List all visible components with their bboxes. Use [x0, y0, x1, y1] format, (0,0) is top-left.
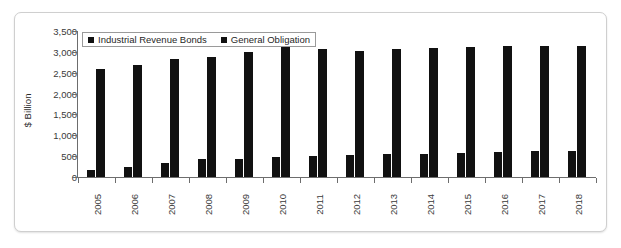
bar-general-obligation — [429, 48, 438, 177]
bar-group — [152, 31, 189, 177]
bar-industrial-revenue-bonds — [420, 154, 429, 177]
y-axis-tick-labels: 05001,0001,5002,0002,5003,0003,500 — [29, 25, 77, 177]
bar-group — [559, 31, 596, 177]
bar-general-obligation — [244, 52, 253, 177]
x-tick-label-2013: 2013 — [387, 183, 398, 227]
bar-industrial-revenue-bonds — [494, 152, 503, 177]
bar-industrial-revenue-bonds — [87, 170, 96, 178]
bar-industrial-revenue-bonds — [568, 151, 577, 177]
bar-industrial-revenue-bonds — [383, 154, 392, 177]
bar-general-obligation — [281, 47, 290, 177]
y-tick-label: 2,500 — [29, 67, 77, 78]
bar-industrial-revenue-bonds — [346, 155, 355, 177]
x-tick-label-2006: 2006 — [128, 183, 139, 227]
legend-label: Industrial Revenue Bonds — [98, 34, 207, 45]
legend-label: General Obligation — [231, 34, 310, 45]
bar-general-obligation — [170, 59, 179, 177]
bar-general-obligation — [392, 49, 401, 177]
bar-group — [337, 31, 374, 177]
x-tick-label-2005: 2005 — [91, 183, 102, 227]
bar-group — [300, 31, 337, 177]
bar-general-obligation — [577, 46, 586, 177]
x-tick-label-2016: 2016 — [498, 183, 509, 227]
x-tick-label-2012: 2012 — [350, 183, 361, 227]
bar-chart: $ Billion 05001,0001,5002,0002,5003,0003… — [15, 13, 608, 233]
bar-general-obligation — [466, 47, 475, 177]
x-axis-tick-labels: 2005200620072008200920102011201220132014… — [78, 183, 596, 227]
x-tick-label-2010: 2010 — [276, 183, 287, 227]
bar-industrial-revenue-bonds — [309, 156, 318, 177]
bar-group — [485, 31, 522, 177]
bar-general-obligation — [540, 46, 549, 177]
y-tick-label: 1,500 — [29, 109, 77, 120]
bar-general-obligation — [96, 69, 105, 177]
chart-legend: Industrial Revenue BondsGeneral Obligati… — [82, 32, 316, 47]
legend-entry: Industrial Revenue Bonds — [88, 34, 207, 45]
x-tick-label-2017: 2017 — [535, 183, 546, 227]
bar-industrial-revenue-bonds — [272, 157, 281, 177]
legend-entry: General Obligation — [221, 34, 310, 45]
bar-general-obligation — [355, 51, 364, 177]
y-tick-label: 3,000 — [29, 46, 77, 57]
bar-group — [374, 31, 411, 177]
bar-industrial-revenue-bonds — [235, 159, 244, 177]
bar-general-obligation — [133, 65, 142, 177]
x-tick-label-2014: 2014 — [424, 183, 435, 227]
bar-general-obligation — [207, 57, 216, 177]
x-tick-label-2007: 2007 — [165, 183, 176, 227]
x-tick-mark — [596, 178, 597, 183]
bar-group — [522, 31, 559, 177]
x-tick-label-2011: 2011 — [313, 183, 324, 227]
y-tick-label: 1,000 — [29, 130, 77, 141]
x-tick-label-2008: 2008 — [202, 183, 213, 227]
bar-group — [411, 31, 448, 177]
y-tick-label: 500 — [29, 151, 77, 162]
bar-general-obligation — [318, 49, 327, 177]
legend-swatch-icon — [88, 37, 94, 43]
plot-area — [78, 31, 596, 177]
bar-group — [115, 31, 152, 177]
legend-swatch-icon — [221, 37, 227, 43]
y-tick-label: 2,000 — [29, 88, 77, 99]
bar-industrial-revenue-bonds — [531, 151, 540, 177]
x-tick-label-2015: 2015 — [461, 183, 472, 227]
chart-frame: $ Billion 05001,0001,5002,0002,5003,0003… — [14, 12, 607, 232]
bar-industrial-revenue-bonds — [198, 159, 207, 177]
y-tick-label: 3,500 — [29, 26, 77, 37]
y-tick-label: 0 — [29, 172, 77, 183]
bar-industrial-revenue-bonds — [124, 167, 133, 177]
x-tick-label-2018: 2018 — [572, 183, 583, 227]
bar-group — [448, 31, 485, 177]
bar-general-obligation — [503, 46, 512, 177]
bar-group — [226, 31, 263, 177]
bar-industrial-revenue-bonds — [161, 163, 170, 177]
bar-industrial-revenue-bonds — [457, 153, 466, 177]
x-tick-label-2009: 2009 — [239, 183, 250, 227]
bar-group — [78, 31, 115, 177]
bar-group — [189, 31, 226, 177]
bar-group — [263, 31, 300, 177]
